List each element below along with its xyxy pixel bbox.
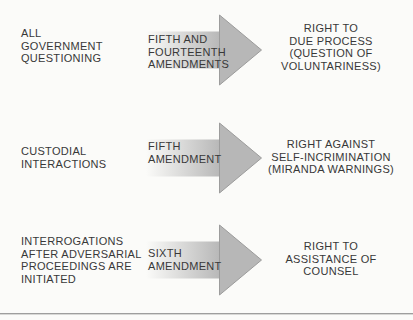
bottom-divider <box>0 313 413 315</box>
arrow-head <box>220 225 262 295</box>
row-source-label: ALL GOVERNMENT QUESTIONING <box>21 27 103 65</box>
diagram-row: INTERROGATIONS AFTER ADVERSARIAL PROCEED… <box>0 209 413 317</box>
row-right-label: RIGHT TO DUE PROCESS (QUESTION OF VOLUNT… <box>268 22 394 72</box>
row-right-label: RIGHT TO ASSISTANCE OF COUNSEL <box>268 240 394 278</box>
flow-diagram: ALL GOVERNMENT QUESTIONING FIFTH AND FOU… <box>0 0 413 320</box>
row-amendment-label: SIXTH AMENDMENT <box>148 247 222 272</box>
diagram-row: ALL GOVERNMENT QUESTIONING FIFTH AND FOU… <box>0 0 413 108</box>
row-amendment-label: FIFTH AMENDMENT <box>148 140 222 165</box>
row-source-label: INTERROGATIONS AFTER ADVERSARIAL PROCEED… <box>21 235 142 285</box>
diagram-row: CUSTODIAL INTERACTIONS FIFTH AMENDMENT R… <box>0 108 413 216</box>
row-source-label: CUSTODIAL INTERACTIONS <box>21 145 107 170</box>
row-amendment-label: FIFTH AND FOURTEENTH AMENDMENTS <box>148 33 229 71</box>
arrow-head <box>220 123 262 193</box>
row-right-label: RIGHT AGAINST SELF-INCRIMINATION (MIRAND… <box>268 138 394 176</box>
